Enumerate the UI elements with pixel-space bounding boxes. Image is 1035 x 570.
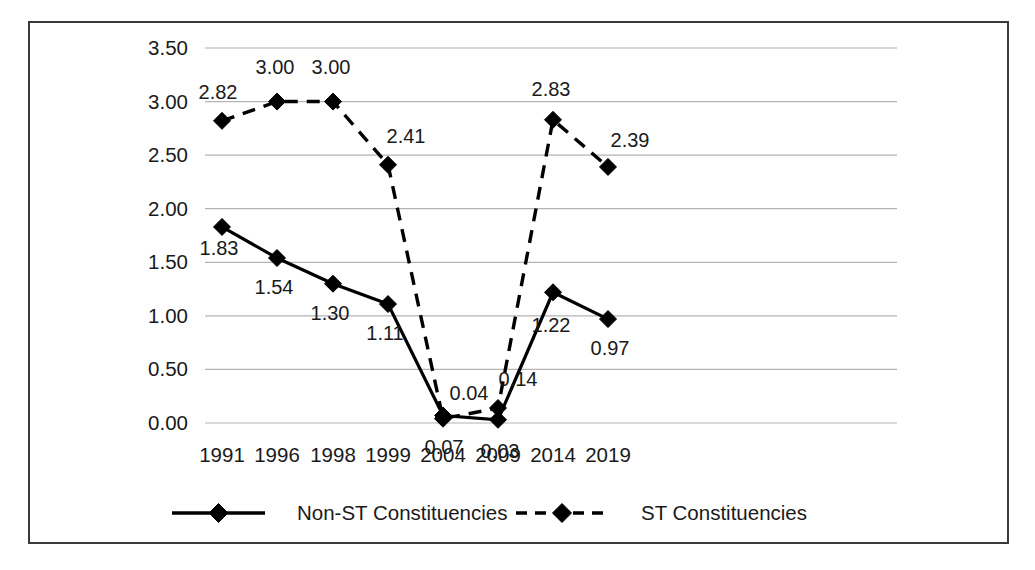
x-axis-tick-label: 1998 (310, 443, 356, 466)
data-point-label: 0.04 (450, 382, 489, 404)
data-point-label: 0.03 (481, 440, 520, 462)
y-axis-tick-label: 2.50 (148, 143, 188, 166)
data-point-label: 2.82 (199, 81, 238, 103)
gridlines-group (205, 48, 897, 423)
data-point-label: 1.30 (311, 302, 350, 324)
x-axis-tick-label: 1991 (199, 443, 245, 466)
data-point-label: 3.00 (312, 56, 351, 78)
y-axis-tick-label: 0.00 (148, 411, 188, 434)
y-axis-tick-label: 1.50 (148, 250, 188, 273)
x-axis-tick-label: 1996 (254, 443, 300, 466)
data-point-marker (545, 284, 562, 301)
legend-label: Non-ST Constituencies (297, 501, 507, 524)
data-point-marker (325, 275, 342, 292)
data-point-marker (214, 112, 231, 129)
x-axis-tick-labels: 19911996199819992004200920142019 (199, 443, 631, 466)
data-point-marker (600, 158, 617, 175)
y-axis-tick-label: 0.50 (148, 357, 188, 380)
data-point-marker (214, 218, 231, 235)
chart-figure: 0.000.501.001.502.002.503.003.50 1991199… (0, 0, 1035, 570)
y-axis-tick-label: 2.00 (148, 197, 188, 220)
data-point-label: 0.07 (425, 436, 464, 458)
y-axis-tick-label: 1.00 (148, 304, 188, 327)
x-axis-tick-label: 2019 (585, 443, 631, 466)
data-point-label: 3.00 (256, 56, 295, 78)
data-point-labels-group: 1.831.541.301.110.070.031.220.972.823.00… (199, 56, 650, 462)
data-point-label: 2.39 (611, 129, 650, 151)
data-point-label: 1.11 (366, 322, 403, 344)
data-point-marker (269, 250, 286, 267)
line-chart: 0.000.501.001.502.002.503.003.50 1991199… (0, 0, 1035, 570)
legend-label: ST Constituencies (641, 501, 807, 524)
data-point-marker (600, 311, 617, 328)
data-point-label: 1.54 (255, 276, 294, 298)
x-axis-tick-label: 2014 (530, 443, 576, 466)
y-axis-tick-label: 3.50 (148, 36, 188, 59)
data-point-label: 2.83 (532, 78, 571, 100)
data-point-label: 2.41 (387, 125, 426, 147)
data-point-marker (269, 93, 286, 110)
data-point-label: 1.22 (532, 314, 571, 336)
y-axis-tick-label: 3.00 (148, 90, 188, 113)
data-point-marker (380, 296, 397, 313)
data-point-label: 0.14 (499, 368, 538, 390)
legend-marker-swatch (209, 504, 228, 523)
x-axis-tick-label: 1999 (365, 443, 411, 466)
data-point-label: 0.97 (591, 337, 630, 359)
chart-legend: Non-ST ConstituenciesST Constituencies (172, 501, 807, 524)
y-axis-tick-labels: 0.000.501.001.502.002.503.003.50 (148, 36, 188, 434)
legend-marker-swatch (553, 504, 572, 523)
data-point-label: 1.83 (200, 237, 239, 259)
data-point-marker (380, 156, 397, 173)
